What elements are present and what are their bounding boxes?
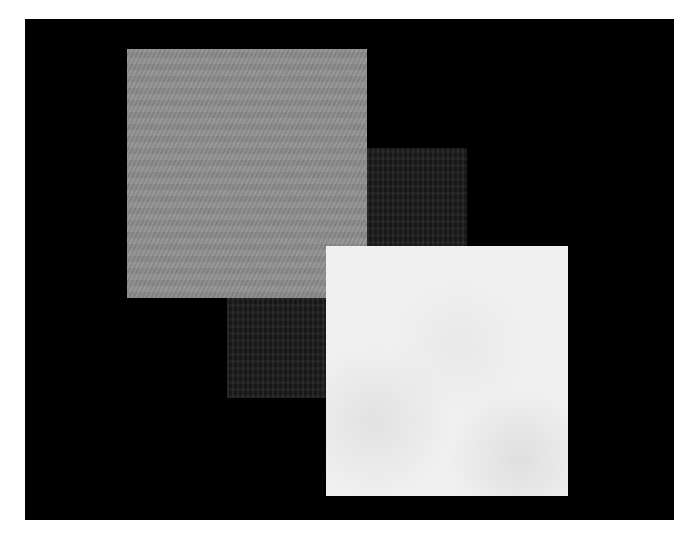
white-square	[326, 246, 568, 496]
